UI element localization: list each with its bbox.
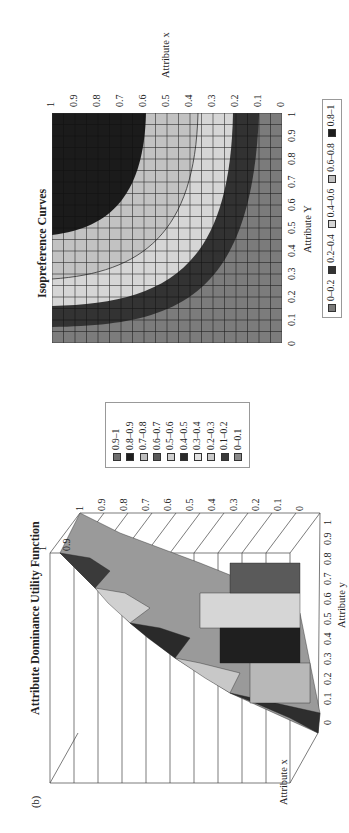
legend-swatch bbox=[113, 453, 121, 461]
y-tick: 0.4 bbox=[183, 95, 194, 108]
y-tick: 0.4 bbox=[322, 633, 333, 646]
x-tick: 1 bbox=[286, 112, 297, 117]
isopreference-plot bbox=[52, 113, 282, 343]
legend-swatch bbox=[328, 129, 336, 137]
x-tick: 0.8 bbox=[286, 153, 297, 166]
isopreference-x-axis-label: Attribute Y bbox=[302, 205, 313, 253]
legend-item: 0.6–0.8 bbox=[325, 143, 339, 183]
legend-swatch bbox=[167, 453, 175, 461]
y-tick: 0.5 bbox=[160, 95, 171, 108]
z-tick: 0.9 bbox=[96, 499, 107, 512]
x-tick: 0 bbox=[286, 341, 297, 346]
legend-swatch bbox=[328, 175, 336, 183]
y-tick: 0 bbox=[275, 102, 286, 107]
legend-swatch bbox=[328, 304, 336, 312]
legend-swatch bbox=[126, 453, 134, 461]
legend-swatch bbox=[234, 453, 242, 461]
surface-legend: 0.9–1 0.8–0.9 0.7–0.8 0.6–0.7 0.5–0.6 0.… bbox=[105, 402, 250, 468]
z-tick: 0.2 bbox=[250, 499, 261, 512]
surface-x-axis-label: Attribute x bbox=[278, 759, 289, 805]
x-tick: 0.6 bbox=[286, 199, 297, 212]
surface-mesh bbox=[60, 513, 320, 733]
y-tick: 0.9 bbox=[68, 95, 79, 108]
rotated-page: (b) Attribute Dominance Utility Function bbox=[0, 0, 349, 833]
y-tick: 0 bbox=[322, 720, 333, 725]
y-tick: 0.7 bbox=[322, 573, 333, 586]
z-tick: 1 bbox=[74, 506, 85, 511]
legend-swatch bbox=[207, 453, 215, 461]
surface-y-axis-label: Attribute y bbox=[336, 582, 347, 628]
legend-item: 0–0.1 bbox=[232, 409, 246, 461]
y-tick: 0.2 bbox=[229, 95, 240, 108]
legend-item: 0–0.2 bbox=[325, 280, 339, 312]
legend-item: 0.9–1 bbox=[110, 409, 124, 461]
legend-item: 0.2–0.4 bbox=[325, 234, 339, 274]
z-tick: 0.5 bbox=[184, 499, 195, 512]
x-tick: 0.7 bbox=[286, 176, 297, 189]
legend-swatch bbox=[328, 220, 336, 228]
y-tick: 0.9 bbox=[322, 533, 333, 546]
y-tick: 0.2 bbox=[322, 673, 333, 686]
legend-swatch bbox=[140, 453, 148, 461]
legend-item: 0.4–0.5 bbox=[178, 409, 192, 461]
legend-item: 0.3–0.4 bbox=[191, 409, 205, 461]
z-tick: 0.3 bbox=[228, 499, 239, 512]
legend-swatch bbox=[180, 453, 188, 461]
svg-text:0.9: 0.9 bbox=[61, 539, 72, 552]
x-tick: 0.4 bbox=[286, 245, 297, 258]
z-tick: 0.4 bbox=[206, 499, 217, 512]
x-tick: 0.1 bbox=[286, 314, 297, 327]
legend-item: 0.7–0.8 bbox=[137, 409, 151, 461]
x-tick: 0.2 bbox=[286, 291, 297, 304]
z-tick: 0.8 bbox=[118, 499, 129, 512]
surface-z-ticks: 1 0.9 bbox=[37, 539, 72, 552]
y-tick: 0.3 bbox=[322, 653, 333, 666]
z-tick: 0 bbox=[294, 506, 305, 511]
y-tick: 0.8 bbox=[91, 95, 102, 108]
x-tick: 0.9 bbox=[286, 130, 297, 143]
y-tick: 0.1 bbox=[252, 95, 263, 108]
legend-item: 0.5–0.6 bbox=[164, 409, 178, 461]
y-tick: 0.8 bbox=[322, 553, 333, 566]
legend-swatch bbox=[153, 453, 161, 461]
z-tick: 0.7 bbox=[140, 499, 151, 512]
y-tick: 0.5 bbox=[322, 613, 333, 626]
legend-item: 0.2–0.3 bbox=[205, 409, 219, 461]
legend-swatch bbox=[328, 266, 336, 274]
isopreference-grid bbox=[52, 113, 282, 343]
isopreference-y-axis-label: Attribute x bbox=[160, 32, 171, 78]
y-tick: 0.6 bbox=[137, 95, 148, 108]
legend-item: 0.8–0.9 bbox=[124, 409, 138, 461]
legend-swatch bbox=[221, 453, 229, 461]
legend-item: 0.6–0.7 bbox=[151, 409, 165, 461]
legend-item: 0.1–0.2 bbox=[218, 409, 232, 461]
y-tick: 0.1 bbox=[322, 693, 333, 706]
y-tick: 0.7 bbox=[114, 95, 125, 108]
z-tick: 0.1 bbox=[272, 499, 283, 512]
y-tick: 1 bbox=[322, 520, 333, 525]
svg-text:1: 1 bbox=[37, 546, 48, 551]
z-tick: 0.6 bbox=[162, 499, 173, 512]
isopreference-title: Isopreference Curves bbox=[35, 189, 50, 298]
y-tick: 0.3 bbox=[206, 95, 217, 108]
x-tick: 0.5 bbox=[286, 222, 297, 235]
legend-item: 0.4–0.6 bbox=[325, 189, 339, 229]
isopreference-legend: 0–0.2 0.2–0.4 0.4–0.6 0.6–0.8 0.8–1 bbox=[322, 99, 342, 318]
legend-item: 0.8–1 bbox=[325, 105, 339, 137]
y-tick: 0.6 bbox=[322, 593, 333, 606]
x-tick: 0.3 bbox=[286, 268, 297, 281]
legend-swatch bbox=[194, 453, 202, 461]
surface-chart: 1 0.9 bbox=[0, 413, 349, 833]
y-tick: 1 bbox=[45, 102, 56, 107]
